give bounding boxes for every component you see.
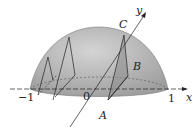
label-y-axis: y (135, 4, 143, 17)
label-A: A (98, 109, 107, 122)
solid-diagram: C B A y x −1 0 1 (0, 0, 196, 139)
label-B: B (132, 60, 141, 73)
tick-1: 1 (168, 92, 175, 105)
label-C: C (119, 18, 128, 31)
label-x-axis: x (186, 91, 193, 104)
tick-0: 0 (83, 90, 90, 103)
dome-surface (30, 27, 168, 97)
tick-neg1: −1 (18, 91, 34, 104)
